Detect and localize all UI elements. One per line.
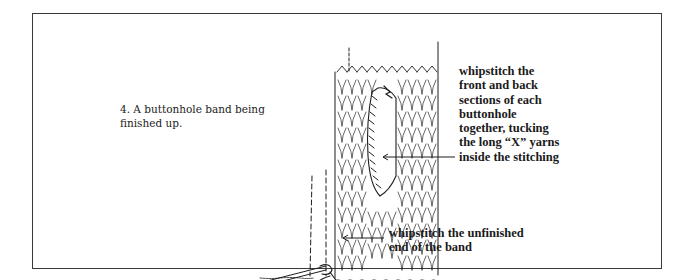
band-end-label-line-2: end of the band <box>389 240 524 254</box>
buttonhole-label-line-5: together, tucking <box>459 121 559 135</box>
knitted-band-illustration <box>0 0 693 280</box>
buttonhole-label-line-3: sections of each <box>459 93 559 107</box>
buttonhole-whipstitch-label: whipstitch the front and back sections o… <box>459 64 559 164</box>
band-end-label-line-1: whipstitch the unfinished <box>389 226 524 240</box>
band-end-whipstitch-label: whipstitch the unfinished end of the ban… <box>389 226 524 255</box>
buttonhole-label-line-2: front and back <box>459 78 559 92</box>
buttonhole-label-line-6: the long “X” yarns <box>459 135 559 149</box>
buttonhole-label-line-1: whipstitch the <box>459 64 559 78</box>
buttonhole-label-line-4: buttonhole <box>459 107 559 121</box>
buttonhole-label-line-7: inside the stitching <box>459 150 559 164</box>
